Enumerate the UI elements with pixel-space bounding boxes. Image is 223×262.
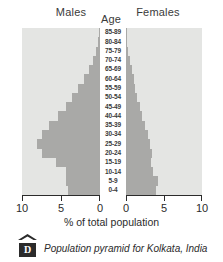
age-label-40-44: 40-44 <box>100 111 126 120</box>
bar-row <box>22 139 100 148</box>
age-label-45-49: 45-49 <box>100 102 126 111</box>
bar-row <box>22 37 100 46</box>
females-tick-label-10: 10 <box>196 202 208 214</box>
bar-row <box>126 139 202 148</box>
bar-row <box>22 28 100 37</box>
males-bar-50-54 <box>72 93 100 102</box>
bar-row <box>126 121 202 130</box>
age-label-35-39: 35-39 <box>100 121 126 130</box>
bar-row <box>126 28 202 37</box>
bar-row <box>22 65 100 74</box>
males-bar-30-34 <box>42 130 101 139</box>
bar-row <box>126 176 202 185</box>
population-pyramid-figure: Males Age Females 0-45-910-1415-1920-242… <box>0 0 223 262</box>
badge-box: D <box>19 243 36 257</box>
females-bar-20-24 <box>126 149 152 158</box>
bar-row <box>22 176 100 185</box>
bar-row <box>126 111 202 120</box>
bar-row <box>126 167 202 176</box>
males-tick-0 <box>99 196 100 201</box>
females-column-header: Females <box>126 6 190 18</box>
age-label-0-4: 0-4 <box>100 186 126 195</box>
bar-row <box>22 186 100 195</box>
females-bar-50-54 <box>126 93 137 102</box>
bar-row <box>22 167 100 176</box>
bar-row <box>126 102 202 111</box>
females-tick-0 <box>126 196 127 201</box>
males-tick-label-10: 10 <box>16 202 28 214</box>
males-tick-label-0: 0 <box>97 202 103 214</box>
males-bar-40-44 <box>58 111 100 120</box>
age-label-10-14: 10-14 <box>100 167 126 176</box>
figure-badge: D <box>18 239 37 258</box>
males-tick-10 <box>22 196 23 201</box>
age-label-75-79: 75-79 <box>100 47 126 56</box>
females-bar-60-64 <box>126 74 134 83</box>
males-tick-5 <box>61 196 62 201</box>
females-bar-35-39 <box>126 121 145 130</box>
males-bar-45-49 <box>66 102 100 111</box>
bar-row <box>22 121 100 130</box>
bar-row <box>22 74 100 83</box>
females-bar-10-14 <box>126 167 153 176</box>
females-bar-0-4 <box>126 186 156 195</box>
females-bar-5-9 <box>126 176 158 185</box>
bar-row <box>22 149 100 158</box>
females-bar-85-89 <box>126 28 127 37</box>
bar-row <box>22 56 100 65</box>
males-bar-rows <box>22 28 100 195</box>
bar-row <box>22 47 100 56</box>
females-bar-65-69 <box>126 65 132 74</box>
x-axis-title: % of total population <box>0 216 223 228</box>
females-tick-5 <box>164 196 165 201</box>
badge-letter: D <box>24 245 31 255</box>
females-bar-55-59 <box>126 84 135 93</box>
bar-row <box>126 158 202 167</box>
males-bar-25-29 <box>37 139 100 148</box>
females-bar-25-29 <box>126 139 150 148</box>
females-bar-rows <box>126 28 202 195</box>
males-bar-0-4 <box>68 186 100 195</box>
age-label-80-84: 80-84 <box>100 37 126 46</box>
bar-row <box>22 111 100 120</box>
males-bar-65-69 <box>89 65 100 74</box>
males-tick-label-5: 5 <box>58 202 64 214</box>
males-bar-70-74 <box>93 56 100 65</box>
females-tick-label-5: 5 <box>161 202 167 214</box>
females-bar-80-84 <box>126 37 127 46</box>
age-label-25-29: 25-29 <box>100 139 126 148</box>
bar-row <box>22 93 100 102</box>
males-bar-60-64 <box>84 74 100 83</box>
age-label-70-74: 70-74 <box>100 56 126 65</box>
age-label-50-54: 50-54 <box>100 93 126 102</box>
males-bar-5-9 <box>66 176 100 185</box>
age-label-30-34: 30-34 <box>100 130 126 139</box>
age-group-axis: 0-45-910-1415-1920-2425-2930-3435-3940-4… <box>100 28 126 195</box>
males-column-header: Males <box>42 6 100 18</box>
age-label-60-64: 60-64 <box>100 74 126 83</box>
age-label-15-19: 15-19 <box>100 158 126 167</box>
caption-text: Population pyramid for Kolkata, India <box>44 243 207 254</box>
bar-row <box>126 56 202 65</box>
bar-row <box>22 130 100 139</box>
males-plot-panel <box>22 28 100 195</box>
bar-row <box>126 47 202 56</box>
males-bar-20-24 <box>42 149 100 158</box>
males-bar-35-39 <box>49 121 100 130</box>
age-label-65-69: 65-69 <box>100 65 126 74</box>
bar-row <box>126 74 202 83</box>
bar-row <box>126 37 202 46</box>
age-label-5-9: 5-9 <box>100 176 126 185</box>
females-bar-40-44 <box>126 111 142 120</box>
males-bar-10-14 <box>66 167 100 176</box>
bar-row <box>126 186 202 195</box>
females-bar-45-49 <box>126 102 140 111</box>
males-x-axis <box>22 195 100 201</box>
bar-row <box>126 65 202 74</box>
bar-row <box>22 102 100 111</box>
age-label-55-59: 55-59 <box>100 84 126 93</box>
bar-row <box>126 84 202 93</box>
bar-row <box>22 84 100 93</box>
females-bar-30-34 <box>126 130 148 139</box>
females-plot-panel <box>126 28 202 195</box>
